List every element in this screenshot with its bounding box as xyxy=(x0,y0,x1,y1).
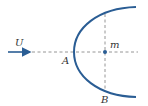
label-m: m xyxy=(110,39,119,50)
diagram-canvas: U A m B xyxy=(0,0,148,106)
label-b: B xyxy=(100,94,108,105)
point-m-dot xyxy=(103,50,107,54)
label-u: U xyxy=(15,37,24,48)
label-a: A xyxy=(61,55,69,66)
